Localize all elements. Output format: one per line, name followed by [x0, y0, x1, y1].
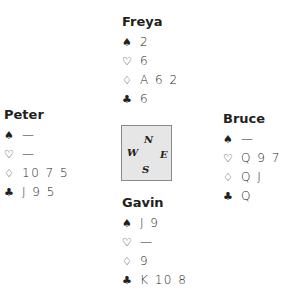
diamond-icon: ♢: [223, 168, 241, 187]
player-name-north: Freya: [122, 14, 179, 30]
club-icon: ♣: [122, 271, 140, 290]
compass-east-label: E: [160, 149, 168, 160]
hand-east: Bruce ♠— ♡Q 9 7 ♢Q J ♣Q: [223, 111, 281, 206]
club-icon: ♣: [223, 187, 241, 206]
diamonds-row: ♢A 6 2: [122, 71, 179, 90]
hearts-row: ♡6: [122, 52, 179, 71]
heart-icon: ♡: [122, 233, 140, 252]
diamonds-row: ♢Q J: [223, 168, 281, 187]
club-icon: ♣: [122, 90, 140, 109]
clubs-row: ♣J 9 5: [4, 183, 69, 202]
compass-box: N W E S: [121, 125, 172, 181]
clubs-row: ♣Q: [223, 187, 281, 206]
player-name-south: Gavin: [122, 195, 187, 211]
hand-west: Peter ♠— ♡— ♢10 7 5 ♣J 9 5: [4, 107, 69, 202]
compass-west-label: W: [127, 147, 138, 158]
diamond-icon: ♢: [122, 71, 140, 90]
spades-row: ♠—: [223, 130, 281, 149]
spade-icon: ♠: [122, 214, 140, 233]
clubs-row: ♣6: [122, 90, 179, 109]
hearts-row: ♡Q 9 7: [223, 149, 281, 168]
hand-north: Freya ♠2 ♡6 ♢A 6 2 ♣6: [122, 14, 179, 109]
spades-row: ♠2: [122, 33, 179, 52]
heart-icon: ♡: [223, 149, 241, 168]
diamonds-row: ♢9: [122, 252, 187, 271]
compass-north-label: N: [144, 134, 153, 145]
diamonds-row: ♢10 7 5: [4, 164, 69, 183]
spade-icon: ♠: [122, 33, 140, 52]
spade-icon: ♠: [4, 126, 22, 145]
hearts-row: ♡—: [122, 233, 187, 252]
heart-icon: ♡: [4, 145, 22, 164]
diamond-icon: ♢: [4, 164, 22, 183]
diamond-icon: ♢: [122, 252, 140, 271]
hearts-row: ♡—: [4, 145, 69, 164]
compass-south-label: S: [142, 164, 149, 175]
spade-icon: ♠: [223, 130, 241, 149]
spades-row: ♠—: [4, 126, 69, 145]
heart-icon: ♡: [122, 52, 140, 71]
player-name-east: Bruce: [223, 111, 281, 127]
spades-row: ♠J 9: [122, 214, 187, 233]
club-icon: ♣: [4, 183, 22, 202]
clubs-row: ♣K 10 8: [122, 271, 187, 290]
player-name-west: Peter: [4, 107, 69, 123]
hand-south: Gavin ♠J 9 ♡— ♢9 ♣K 10 8: [122, 195, 187, 290]
